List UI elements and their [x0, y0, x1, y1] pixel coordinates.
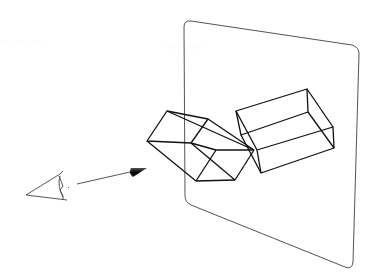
background-bleed-through: ~ ~~ ~~ ~~ ~~~: [2, 34, 203, 55]
viewing-direction-arrow: [77, 168, 147, 184]
projection-diagram: ~ ~~ ~~ ~~ ~~~: [0, 0, 384, 279]
svg-text:~ ~~ ~~: ~ ~~ ~~: [2, 34, 44, 49]
eye-icon: [26, 171, 69, 200]
arrowhead-cone-icon: [130, 168, 147, 177]
box-behind: [236, 89, 334, 173]
projection-plane: [184, 21, 359, 268]
